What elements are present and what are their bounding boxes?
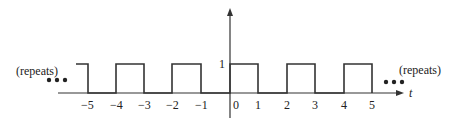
x-tick-label: −2 [166, 98, 179, 112]
repeats-left-label: (repeats) [16, 64, 58, 78]
x-tick-label: 5 [369, 98, 375, 112]
x-tick-labels: −5 −4 −3 −2 −1 0 1 2 3 4 5 [81, 98, 375, 112]
x-tick-label: 0 [233, 98, 239, 112]
t-axis-arrow-icon [396, 90, 404, 96]
repeats-right-label: (repeats) [399, 63, 441, 77]
ellipsis-right-icon [384, 80, 404, 84]
square-wave-diagram: 1 −5 −4 −3 −2 −1 0 1 2 3 4 5 t (repeats)… [0, 0, 455, 123]
x-tick-label: −5 [81, 98, 94, 112]
y-tick-label: 1 [219, 57, 225, 71]
x-tick-label: −4 [110, 98, 123, 112]
x-tick-label: −3 [138, 98, 151, 112]
x-tick-label: 3 [312, 98, 318, 112]
x-tick-label: 1 [255, 98, 261, 112]
x-tick-label: −1 [195, 98, 208, 112]
t-axis-label: t [409, 86, 413, 100]
x-tick-label: 4 [341, 98, 347, 112]
ellipsis-left-icon [47, 78, 67, 82]
y-axis-arrow-icon [227, 8, 233, 16]
x-tick-label: 2 [284, 98, 290, 112]
